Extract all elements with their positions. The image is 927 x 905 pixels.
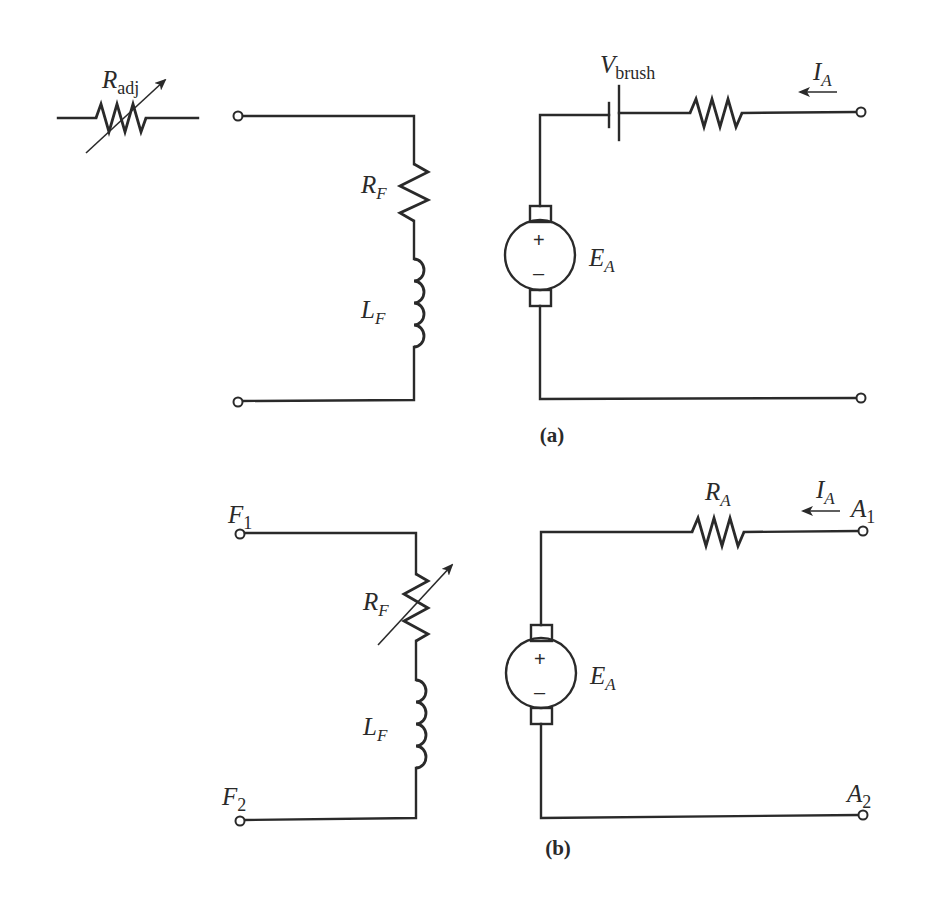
lf-label-a: LF — [360, 296, 386, 328]
panel-b: F1 F2 RF LF + – RA IA — [221, 476, 875, 860]
field-resistor-rf-symbol — [400, 164, 428, 221]
field-inductor-lf-symbol — [414, 259, 424, 347]
armature-circuit-b — [506, 511, 868, 820]
caption-a: (a) — [540, 423, 565, 447]
armature-resistor-a-symbol — [690, 99, 742, 127]
r-adj-label: Radj — [101, 66, 139, 98]
terminal-f2[interactable] — [236, 817, 245, 826]
minus-sign-a: – — [533, 262, 545, 284]
field-terminal-top-a[interactable] — [234, 112, 243, 121]
armature-terminal-top-a[interactable] — [857, 108, 866, 117]
ea-label-b: EA — [589, 662, 616, 694]
armature-circuit-a — [505, 86, 866, 403]
terminal-a1[interactable] — [859, 527, 868, 536]
armature-resistor-ra-symbol — [692, 518, 744, 546]
ia-label-a: IA — [812, 58, 832, 90]
brush-bottom-b — [531, 708, 552, 724]
lf-label-b: LF — [362, 713, 388, 745]
ra-label: RA — [704, 478, 731, 510]
field-inductor-lf-b-symbol — [416, 680, 426, 768]
plus-sign-a: + — [533, 229, 545, 251]
caption-b: (b) — [545, 836, 571, 860]
brush-drop-battery-symbol — [609, 86, 619, 140]
armature-terminal-bottom-a[interactable] — [857, 394, 866, 403]
brush-bottom-a — [530, 290, 551, 306]
ea-label-a: EA — [588, 244, 615, 276]
field-rheostat-rf-symbol — [404, 574, 428, 641]
rf-label-a: RF — [360, 171, 387, 203]
f1-label: F1 — [227, 501, 252, 533]
plus-sign-b: + — [534, 648, 546, 670]
panel-a: Radj RF LF — [58, 51, 866, 447]
rf-label-b: RF — [362, 588, 389, 620]
ia-label-b: IA — [815, 476, 835, 508]
a2-label: A2 — [845, 780, 871, 812]
f2-label: F2 — [221, 783, 246, 815]
dc-motor-equivalent-circuit-figure: Radj RF LF — [0, 0, 927, 905]
field-circuit-a — [234, 112, 429, 407]
field-circuit-b — [236, 530, 453, 826]
a1-label: A1 — [849, 495, 875, 527]
minus-sign-b: – — [534, 681, 546, 703]
field-terminal-bottom-a[interactable] — [234, 398, 243, 407]
vbrush-label: Vbrush — [600, 51, 655, 83]
